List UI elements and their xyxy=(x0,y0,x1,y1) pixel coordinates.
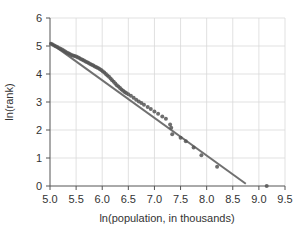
data-point xyxy=(142,103,146,107)
x-tick-label: 6.5 xyxy=(121,193,136,205)
y-tick-label: 3 xyxy=(36,96,42,108)
data-point xyxy=(152,110,156,114)
data-point xyxy=(215,165,219,169)
x-tick-label: 8.0 xyxy=(199,193,214,205)
data-point xyxy=(192,145,196,149)
x-tick-label: 6.0 xyxy=(95,193,110,205)
scatter-points xyxy=(49,42,269,188)
regression-line xyxy=(50,43,246,184)
data-point xyxy=(156,112,160,116)
y-tick-label: 6 xyxy=(36,12,42,24)
fitted-line xyxy=(50,43,246,184)
x-axis-title: ln(population, in thousands) xyxy=(99,212,234,224)
x-tick-label: 5.5 xyxy=(68,193,83,205)
x-tick-label: 7.0 xyxy=(147,193,162,205)
x-tick-label: 9.5 xyxy=(277,193,292,205)
y-tick-label: 5 xyxy=(36,40,42,52)
data-point xyxy=(179,136,183,140)
gridlines xyxy=(50,18,285,186)
data-point xyxy=(184,139,188,143)
tick-labels: 5.05.56.06.57.07.58.08.59.09.50123456 xyxy=(36,12,293,205)
data-point xyxy=(265,184,269,188)
data-point xyxy=(169,126,173,130)
y-axis-title: ln(rank) xyxy=(3,83,15,120)
y-tick-label: 2 xyxy=(36,124,42,136)
data-point xyxy=(168,122,172,126)
y-tick-label: 1 xyxy=(36,152,42,164)
zipf-plot: 5.05.56.06.57.07.58.08.59.09.50123456 ln… xyxy=(0,0,304,234)
data-point xyxy=(149,107,153,111)
y-tick-label: 4 xyxy=(36,68,42,80)
x-tick-label: 8.5 xyxy=(225,193,240,205)
data-point xyxy=(170,132,174,136)
x-tick-label: 5.0 xyxy=(42,193,57,205)
y-tick-label: 0 xyxy=(36,180,42,192)
data-point xyxy=(199,153,203,157)
axes xyxy=(46,18,285,190)
x-tick-label: 9.0 xyxy=(251,193,266,205)
data-point xyxy=(160,115,164,119)
x-tick-label: 7.5 xyxy=(173,193,188,205)
data-point xyxy=(164,117,168,121)
